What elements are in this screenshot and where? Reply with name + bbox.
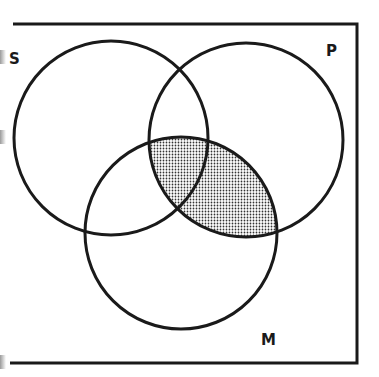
label-s: S — [9, 50, 20, 68]
label-p: P — [326, 42, 337, 60]
venn-diagram: S P M — [0, 0, 379, 377]
label-m: M — [261, 331, 276, 349]
